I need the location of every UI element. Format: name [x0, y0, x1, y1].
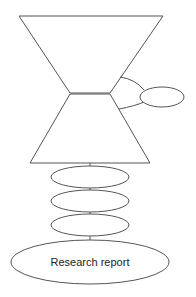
- stage-ellipse-3: [51, 214, 129, 236]
- final-ellipse-label: Research report: [51, 256, 130, 268]
- stage-ellipse-1: [51, 166, 129, 188]
- lower-feedback-connector: [119, 102, 144, 109]
- bottom-funnel-shape: [30, 94, 150, 163]
- stage-ellipse-2: [51, 190, 129, 212]
- top-funnel-shape: [19, 16, 163, 93]
- upper-feedback-connector: [120, 77, 144, 90]
- side-ellipse: [140, 87, 184, 107]
- hourglass-diagram: Research report: [0, 0, 196, 297]
